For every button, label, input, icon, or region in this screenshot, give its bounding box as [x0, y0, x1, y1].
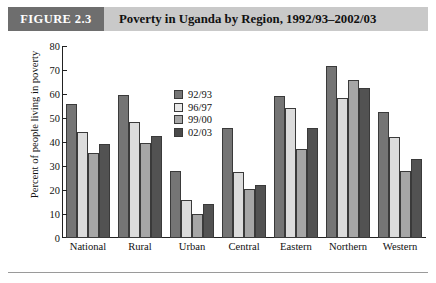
- y-axis-tick-labels: 01020304050607080: [30, 46, 60, 238]
- legend-swatch-icon: [174, 90, 183, 99]
- bar: [296, 149, 307, 238]
- y-tick-label: 40: [50, 137, 60, 148]
- legend-swatch-icon: [174, 128, 183, 137]
- legend-item: 99/00: [174, 114, 212, 125]
- legend-item: 96/97: [174, 102, 212, 113]
- bar: [88, 153, 99, 238]
- bar: [255, 185, 266, 238]
- y-tick-label: 30: [50, 161, 60, 172]
- bars-layer: [62, 46, 426, 238]
- chart-plot-area: Percent of people living in poverty 0102…: [8, 33, 428, 261]
- y-tick-label: 50: [50, 113, 60, 124]
- y-tick-mark: [62, 214, 67, 215]
- figure-container: FIGURE 2.3 Poverty in Uganda by Region, …: [0, 0, 436, 283]
- figure-number-tag: FIGURE 2.3: [8, 7, 104, 31]
- y-tick-label: 60: [50, 89, 60, 100]
- bar: [129, 122, 140, 238]
- bar-group: [114, 46, 166, 238]
- x-category-label: Eastern: [280, 241, 312, 252]
- bar: [378, 112, 389, 238]
- bar: [99, 144, 110, 238]
- bar: [359, 88, 370, 238]
- bar-group: [166, 46, 218, 238]
- y-tick-mark: [62, 94, 67, 95]
- bar: [244, 189, 255, 238]
- bar: [66, 104, 77, 238]
- bar: [222, 128, 233, 238]
- x-category-label: National: [70, 241, 106, 252]
- x-category-label: Rural: [128, 241, 152, 252]
- x-axis-category-labels: NationalRuralUrbanCentralEasternNorthern…: [62, 241, 426, 259]
- y-tick-label: 80: [50, 41, 60, 52]
- bar: [203, 204, 214, 238]
- y-tick-mark: [62, 142, 67, 143]
- bar: [400, 171, 411, 238]
- legend-label: 99/00: [188, 114, 212, 125]
- bar-group: [218, 46, 270, 238]
- x-category-label: Urban: [179, 241, 205, 252]
- y-tick-mark: [62, 70, 67, 71]
- y-tick-mark: [62, 46, 67, 47]
- bar: [348, 80, 359, 238]
- x-category-label: Western: [383, 241, 417, 252]
- footer-rule: [8, 272, 428, 273]
- legend-swatch-icon: [174, 103, 183, 112]
- x-category-label: Central: [228, 241, 259, 252]
- figure-title: Poverty in Uganda by Region, 1992/93–200…: [104, 7, 428, 31]
- bar-group: [270, 46, 322, 238]
- bar: [151, 136, 162, 238]
- y-tick-label: 20: [50, 185, 60, 196]
- legend-swatch-icon: [174, 115, 183, 124]
- bar: [337, 98, 348, 238]
- legend-label: 96/97: [188, 102, 212, 113]
- bar: [307, 128, 318, 238]
- bar-group: [62, 46, 114, 238]
- bar: [118, 95, 129, 238]
- x-category-label: Northern: [329, 241, 367, 252]
- bar: [411, 159, 422, 238]
- bar: [233, 172, 244, 238]
- chart-legend: 92/9396/9799/0002/03: [174, 89, 212, 138]
- legend-label: 92/93: [188, 89, 212, 100]
- bar-group: [322, 46, 374, 238]
- y-tick-label: 70: [50, 65, 60, 76]
- bar: [326, 66, 337, 238]
- y-tick-label: 10: [50, 209, 60, 220]
- y-tick-label: 0: [55, 233, 60, 244]
- y-tick-mark: [62, 118, 67, 119]
- figure-header-band: FIGURE 2.3 Poverty in Uganda by Region, …: [8, 7, 428, 31]
- bar: [170, 171, 181, 238]
- legend-item: 92/93: [174, 89, 212, 100]
- bar: [274, 96, 285, 238]
- bar: [192, 214, 203, 238]
- y-tick-mark: [62, 166, 67, 167]
- legend-item: 02/03: [174, 127, 212, 138]
- bar: [181, 200, 192, 238]
- bar: [140, 143, 151, 238]
- bar: [285, 108, 296, 238]
- bar: [389, 137, 400, 238]
- bar: [77, 132, 88, 238]
- legend-label: 02/03: [188, 127, 212, 138]
- y-tick-mark: [62, 190, 67, 191]
- bar-group: [374, 46, 426, 238]
